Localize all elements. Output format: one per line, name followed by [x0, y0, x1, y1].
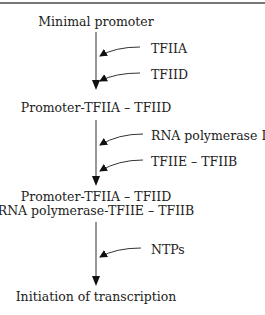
- node-promoter-complex-line1: Promoter-TFIIA – TFIID: [21, 190, 171, 204]
- node-minimal-promoter: Minimal promoter: [38, 15, 153, 29]
- input-tfiid: TFIID: [151, 68, 188, 82]
- input-ntps: NTPs: [151, 243, 185, 257]
- node-initiation-of-transcription: Initiation of transcription: [16, 290, 177, 304]
- input-tfiia: TFIIA: [151, 42, 187, 56]
- input-rna-polymerase-ii: RNA polymerase II: [151, 129, 265, 143]
- node-promoter-tfiia-tfiid: Promoter-TFIIA – TFIID: [21, 101, 171, 115]
- node-promoter-complex-line2: RNA polymerase-TFIIE – TFIIB: [0, 204, 194, 218]
- input-tfiie-tfiib: TFIIE – TFIIB: [151, 155, 237, 169]
